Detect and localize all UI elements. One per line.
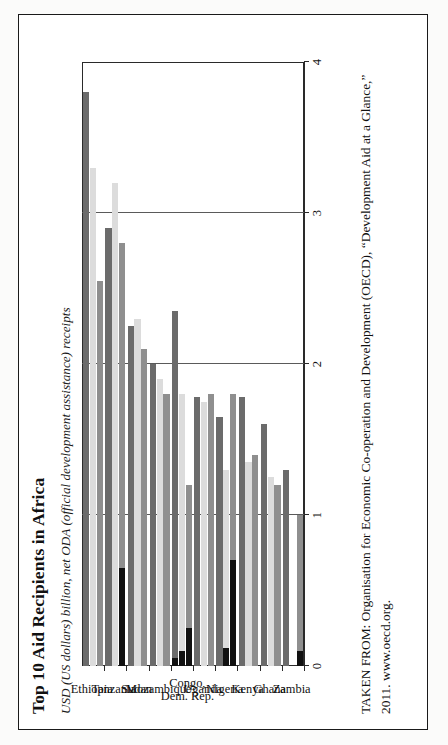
bar-nigeria-2009 — [216, 417, 222, 666]
bar-congo-dem-rep-2009 — [172, 311, 178, 666]
bar-segment-total — [194, 397, 200, 666]
bar-ethiopia-2009 — [83, 92, 89, 666]
category-tick-mark — [282, 667, 283, 672]
category-tick-mark — [237, 667, 238, 672]
axis-tick-mark — [304, 514, 309, 515]
axis-tick-label: 1 — [310, 502, 325, 528]
category-tick-mark — [104, 667, 105, 672]
bar-segment-total — [179, 394, 185, 666]
bar-sudan-2007 — [141, 349, 147, 666]
bar-segment-debt-relief — [297, 651, 303, 666]
bar-kenya-2008 — [245, 462, 251, 666]
category-label-line: Zambia — [253, 683, 331, 696]
axis-tick-label: 2 — [310, 351, 325, 377]
bar-kenya-2009 — [239, 397, 245, 666]
page-canvas: Top 10 Aid Recipients in Africa USD (US … — [0, 0, 448, 745]
bar-segment-total — [261, 424, 267, 666]
chart-subtitle: USD (US dollars) billion, net ODA (offic… — [58, 154, 74, 714]
bar-segment-total — [105, 228, 111, 666]
bar-segment-total — [97, 281, 103, 666]
bar-segment-debt-relief — [119, 568, 125, 666]
bars-layer — [82, 62, 304, 666]
bar-uganda-2008 — [201, 402, 207, 666]
bar-segment-total — [239, 397, 245, 666]
bar-segment-total — [134, 319, 140, 666]
bar-segment-total — [90, 168, 96, 666]
category-tick-mark — [304, 667, 305, 672]
bar-tanzania-2008 — [112, 183, 118, 666]
category-tick-mark — [193, 667, 194, 672]
bar-mozambique-2008 — [157, 379, 163, 666]
category-tick-mark — [126, 667, 127, 672]
bar-sudan-2008 — [134, 319, 140, 666]
bar-segment-total — [172, 311, 178, 666]
bar-segment-total — [274, 485, 280, 666]
bar-zambia-2009 — [283, 470, 289, 666]
axis-tick-label: 3 — [310, 200, 325, 226]
page-title: Top 10 Aid Recipients in Africa — [28, 154, 49, 714]
bar-segment-debt-relief — [186, 628, 192, 666]
source-line-2: 2011. www.oecd.org. — [376, 114, 396, 714]
bar-mozambique-2007 — [163, 394, 169, 666]
category-tick-mark — [215, 667, 216, 672]
bar-segment-total — [141, 349, 147, 666]
bar-segment-debt-relief — [172, 658, 178, 666]
bar-segment-total — [208, 394, 214, 666]
axis-tick-label: 4 — [310, 49, 325, 75]
bar-segment-total — [245, 462, 251, 666]
bar-ghana-2008 — [268, 477, 274, 666]
bar-tanzania-2007 — [119, 243, 125, 666]
value-axis: 01234 — [304, 62, 330, 666]
category-tick-mark — [149, 667, 150, 672]
bar-segment-debt-relief — [223, 648, 229, 666]
bar-zambia-2007 — [297, 515, 303, 666]
source-note: TAKEN FROM: Organisation for Economic Co… — [356, 114, 397, 714]
title-block: Top 10 Aid Recipients in Africa USD (US … — [28, 154, 74, 714]
bar-segment-total — [150, 364, 156, 666]
bar-segment-total — [297, 515, 303, 666]
axis-tick-mark — [304, 363, 309, 364]
bar-ethiopia-2007 — [97, 281, 103, 666]
bar-congo-dem-rep-2008 — [179, 394, 185, 666]
bar-segment-total — [157, 379, 163, 666]
axis-tick-mark — [304, 61, 309, 62]
bar-segment-debt-relief — [230, 560, 236, 666]
bar-segment-total — [201, 402, 207, 666]
bar-segment-total — [283, 470, 289, 666]
bar-ethiopia-2008 — [90, 168, 96, 666]
category-tick-mark — [260, 667, 261, 672]
bar-segment-total — [128, 326, 134, 666]
figure-frame: Top 10 Aid Recipients in Africa USD (US … — [18, 14, 428, 730]
category-label-zambia: Zambia — [253, 683, 331, 696]
bar-segment-total — [223, 470, 229, 666]
bar-kenya-2007 — [252, 455, 258, 666]
bar-segment-total — [163, 394, 169, 666]
rotated-figure-canvas: Top 10 Aid Recipients in Africa USD (US … — [20, 16, 426, 728]
bar-segment-total — [112, 183, 118, 666]
bar-ghana-2009 — [261, 424, 267, 666]
bar-sudan-2009 — [128, 326, 134, 666]
bar-segment-debt-relief — [179, 651, 185, 666]
bar-uganda-2009 — [194, 397, 200, 666]
bar-uganda-2007 — [208, 394, 214, 666]
bar-segment-total — [268, 477, 274, 666]
bar-segment-total — [216, 417, 222, 666]
category-tick-mark — [171, 667, 172, 672]
bar-nigeria-2007 — [230, 394, 236, 666]
bar-nigeria-2008 — [223, 470, 229, 666]
bar-ghana-2007 — [274, 485, 280, 666]
plot-area — [82, 62, 304, 666]
bar-segment-total — [252, 455, 258, 666]
bar-tanzania-2009 — [105, 228, 111, 666]
axis-tick-mark — [304, 212, 309, 213]
bar-mozambique-2009 — [150, 364, 156, 666]
bar-congo-dem-rep-2007 — [186, 485, 192, 666]
source-line-1: TAKEN FROM: Organisation for Economic Co… — [356, 114, 376, 714]
bar-segment-total — [83, 92, 89, 666]
axis-tick-label: 0 — [310, 653, 325, 679]
